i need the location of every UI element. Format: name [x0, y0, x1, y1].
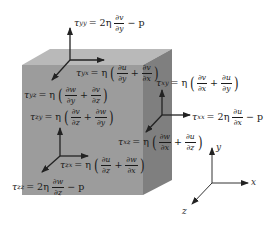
suffix: − p — [67, 182, 84, 192]
fraction: ∂v∂z — [71, 108, 81, 126]
denominator: ∂y — [221, 84, 231, 93]
equation-tau-xy: τxy = η ( ∂v∂x + ∂u∂y ) — [156, 74, 239, 92]
denominator: ∂y — [114, 24, 124, 33]
numerator: ∂w — [159, 133, 171, 143]
subscript: zx — [65, 162, 72, 169]
subscript: xz — [123, 139, 130, 146]
equation-tau-zx: τzx = η ( ∂u∂z + ∂w∂x ) — [60, 156, 145, 174]
numerator: ∂v — [197, 74, 207, 84]
denominator: ∂x — [197, 84, 207, 93]
fraction: ∂v∂y — [114, 14, 124, 32]
fraction: ∂v∂x — [142, 64, 152, 82]
subscript: xy — [161, 80, 168, 87]
equation-tau-yx: τyx = η ( ∂u∂y + ∂v∂x ) — [76, 64, 159, 82]
rhs-prefix: = η — [171, 78, 188, 88]
denominator: ∂y — [117, 74, 127, 83]
right-paren: ) — [109, 109, 114, 126]
equation-tau-xz: τxz = η ( ∂w∂x + ∂u∂z ) — [118, 133, 203, 151]
numerator: ∂u — [101, 156, 112, 166]
subscript: xx — [197, 114, 204, 121]
fraction: ∂w∂y — [95, 108, 107, 126]
plus: + — [80, 90, 88, 100]
denominator: ∂x — [142, 74, 152, 83]
fraction: ∂w∂y — [65, 86, 77, 104]
denominator: ∂z — [71, 118, 81, 127]
axis-label-y: y — [216, 142, 221, 152]
rhs-prefix: = η — [74, 160, 91, 170]
rhs-prefix: = 2η — [207, 112, 230, 122]
denominator: ∂x — [160, 143, 170, 152]
fraction: ∂v∂x — [197, 74, 207, 92]
fraction: ∂v∂z — [91, 86, 101, 104]
fraction: ∂u∂x — [232, 108, 243, 126]
right-paren: ) — [140, 157, 145, 174]
numerator: ∂w — [95, 108, 107, 118]
left-paren: ( — [58, 87, 63, 104]
suffix: − p — [127, 18, 144, 28]
rhs-prefix: = η — [44, 112, 61, 122]
rhs-prefix: = 2η — [26, 182, 49, 192]
numerator: ∂w — [65, 86, 77, 96]
fraction: ∂u∂y — [117, 64, 128, 82]
numerator: ∂w — [125, 156, 137, 166]
numerator: ∂v — [91, 86, 101, 96]
fraction: ∂w∂z — [52, 178, 64, 196]
left-paren: ( — [94, 157, 99, 174]
axis-label-x: x — [251, 177, 256, 187]
denominator: ∂x — [233, 118, 243, 127]
denominator: ∂y — [66, 96, 76, 105]
right-paren: ) — [234, 75, 239, 92]
fraction: ∂u∂z — [185, 133, 196, 151]
fraction: ∂u∂z — [101, 156, 112, 174]
plus: + — [210, 78, 218, 88]
denominator: ∂z — [53, 188, 63, 197]
rhs-prefix: = η — [38, 90, 55, 100]
left-paren: ( — [190, 75, 195, 92]
equation-tau-xx: τxx = 2η ∂u∂x − p — [192, 108, 265, 126]
numerator: ∂v — [142, 64, 152, 74]
left-paren: ( — [152, 134, 157, 151]
subscript: yz — [29, 92, 36, 99]
denominator: ∂x — [126, 166, 136, 175]
plus: + — [174, 137, 182, 147]
plus: + — [114, 160, 122, 170]
fraction: ∂w∂x — [125, 156, 137, 174]
numerator: ∂u — [221, 74, 232, 84]
rhs-prefix: = η — [91, 68, 108, 78]
coordinate-axes — [192, 148, 248, 204]
denominator: ∂z — [101, 166, 111, 175]
equation-tau-yz: τyz = η ( ∂w∂y + ∂v∂z ) — [24, 86, 109, 104]
stress-tensor-diagram: τyy = 2η ∂v∂y − p τyx = η ( ∂u∂y + ∂v∂x … — [0, 0, 275, 231]
subscript: yx — [81, 70, 88, 77]
denominator: ∂z — [185, 143, 195, 152]
denominator: ∂y — [96, 118, 106, 127]
fraction: ∂w∂x — [159, 133, 171, 151]
numerator: ∂u — [185, 133, 196, 143]
denominator: ∂z — [91, 96, 101, 105]
rhs-prefix: = 2η — [89, 18, 112, 28]
equation-tau-zz: τzz = 2η ∂w∂z − p — [12, 178, 86, 196]
axis-label-z: z — [182, 206, 187, 216]
subscript: zy — [35, 114, 42, 121]
plus: + — [84, 112, 92, 122]
left-paren: ( — [64, 109, 69, 126]
equation-tau-zy: τzy = η ( ∂v∂z + ∂w∂y ) — [30, 108, 115, 126]
rhs-prefix: = η — [132, 137, 149, 147]
fraction: ∂u∂y — [221, 74, 232, 92]
numerator: ∂v — [114, 14, 124, 24]
subscript: zz — [17, 184, 24, 191]
right-paren: ) — [103, 87, 108, 104]
cube-front-face — [22, 65, 143, 195]
plus: + — [131, 68, 139, 78]
numerator: ∂u — [117, 64, 128, 74]
numerator: ∂u — [232, 108, 243, 118]
subscript: yy — [79, 20, 86, 27]
numerator: ∂v — [71, 108, 81, 118]
numerator: ∂w — [52, 178, 64, 188]
equation-tau-yy: τyy = 2η ∂v∂y − p — [74, 14, 147, 32]
right-paren: ) — [198, 134, 203, 151]
left-paren: ( — [110, 65, 115, 82]
suffix: − p — [246, 112, 263, 122]
